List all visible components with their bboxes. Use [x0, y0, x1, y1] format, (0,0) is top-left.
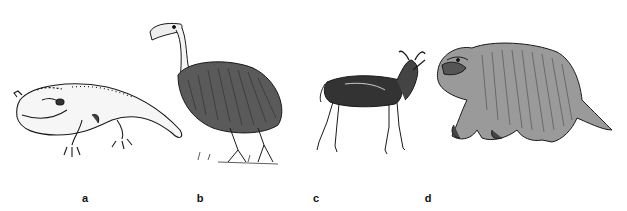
- panel-d-label: d: [425, 192, 432, 204]
- bird-icon: [138, 10, 290, 170]
- ground-sloth-icon: [432, 30, 618, 148]
- panel-b-label: b: [197, 192, 204, 204]
- panel-c-label: c: [313, 192, 319, 204]
- panel-d-ground-sloth-drawing: [432, 30, 618, 148]
- panel-c-antelope-drawing: [305, 42, 430, 160]
- panel-a-label: a: [82, 192, 88, 204]
- antelope-icon: [305, 42, 430, 160]
- illustration-figure: a b c d: [0, 0, 627, 211]
- panel-b-bird-drawing: [138, 10, 290, 170]
